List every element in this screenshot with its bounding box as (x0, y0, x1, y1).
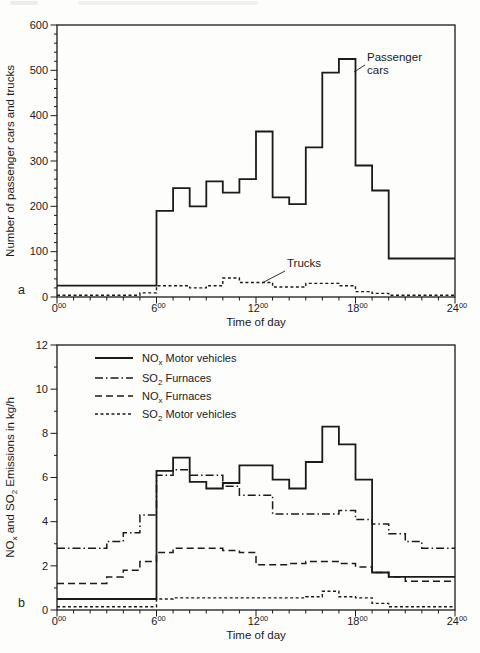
y-tick-label: 500 (30, 64, 48, 76)
y-tick-label: 600 (30, 19, 48, 31)
panel-label-a: a (18, 283, 25, 297)
y-tick-label: 4 (42, 515, 48, 527)
x-tick-label: 000 (52, 301, 66, 314)
series-nox-motor-vehicles (57, 427, 455, 599)
trucks-label: Trucks (287, 257, 321, 270)
y-tick-label: 100 (30, 245, 48, 257)
series-so2-furnaces (57, 470, 455, 548)
x-tick-label: 600 (151, 614, 165, 627)
x-tick-label: 1800 (347, 614, 368, 627)
panel-label-b: b (18, 596, 25, 610)
series-passenger-cars (57, 59, 455, 286)
legend-label: SO2 Furnaces (142, 372, 212, 387)
x-tick-label: 1200 (248, 614, 269, 627)
y-tick-label: 0 (42, 604, 48, 616)
series-nox-furnaces (57, 548, 455, 583)
y-axis-title: NOx and SO2 Emissions in kg/h (4, 397, 19, 558)
emissions-chart: 000600120018002400024681012Time of dayNO… (0, 330, 480, 653)
x-tick-label: 1800 (347, 301, 368, 314)
x-tick-label: 1200 (248, 301, 269, 314)
y-tick-label: 0 (42, 291, 48, 303)
x-tick-label: 2400 (447, 614, 468, 627)
traffic-count-chart: 0006001200180024000100200300400500600Tim… (0, 0, 480, 330)
legend-label: NOx Furnaces (142, 390, 212, 405)
x-tick-label: 2400 (447, 301, 468, 314)
y-tick-label: 400 (30, 109, 48, 121)
trucks-label-leader (262, 271, 285, 283)
plot-frame (57, 345, 455, 610)
y-tick-label: 2 (42, 560, 48, 572)
x-tick-label: 600 (151, 301, 165, 314)
legend-label: NOx Motor vehicles (142, 352, 237, 367)
x-axis-title: Time of day (226, 629, 286, 641)
y-tick-label: 10 (36, 383, 48, 395)
y-tick-label: 200 (30, 200, 48, 212)
x-axis-title: Time of day (226, 316, 286, 328)
passenger-cars-label: Passengercars (367, 51, 422, 76)
y-tick-label: 12 (36, 339, 48, 351)
figure-page: 0006001200180024000100200300400500600Tim… (0, 0, 480, 653)
y-tick-label: 8 (42, 427, 48, 439)
legend-label: SO2 Motor vehicles (142, 408, 237, 423)
y-axis-title: Number of passenger cars and trucks (4, 65, 16, 257)
x-tick-label: 000 (52, 614, 66, 627)
y-tick-label: 300 (30, 155, 48, 167)
y-tick-label: 6 (42, 471, 48, 483)
